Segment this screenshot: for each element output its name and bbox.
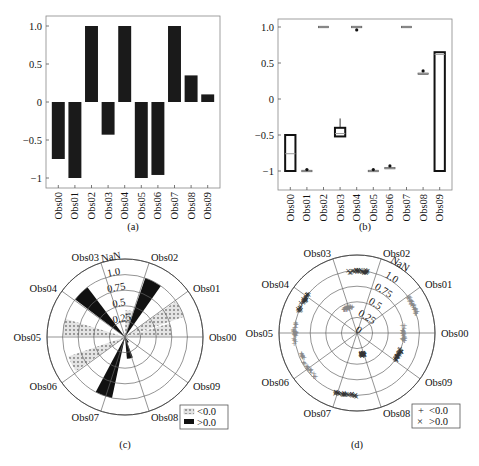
radial-tick-label: 1.0	[106, 266, 121, 279]
scatter-marker: ×	[351, 267, 357, 275]
scatter-marker: ×	[345, 267, 351, 275]
scatter-marker: ×	[295, 307, 301, 315]
scatter-marker: ×	[346, 391, 352, 399]
bar	[68, 102, 81, 178]
legend-d: + <0.0 × >0.0	[412, 404, 460, 428]
scatter-marker: +	[303, 363, 309, 371]
x-tick-label: Obs01	[69, 192, 80, 219]
y-tick-label: 0.5	[29, 59, 42, 70]
caption-b: (b)	[359, 221, 372, 233]
polar-angle-label: Obs06	[30, 381, 57, 392]
outlier	[422, 69, 425, 72]
box	[418, 73, 428, 75]
legend-swatch-neg	[184, 409, 194, 414]
box	[285, 135, 295, 171]
scatter-marker: ×	[362, 266, 368, 274]
polar-angle-label: Obs07	[72, 412, 99, 423]
x-tick-label: Obs05	[136, 192, 147, 219]
y-tick-label: −1	[31, 173, 42, 184]
x-tick-label: Obs09	[202, 192, 213, 219]
x-tick-label: Obs07	[401, 194, 412, 221]
x-tick-label: Obs03	[335, 194, 346, 221]
polar-angle-label: Obs05	[14, 332, 41, 343]
y-tick-label: −0.5	[23, 135, 42, 146]
x-tick-label: Obs04	[351, 193, 362, 221]
bar	[201, 94, 214, 102]
legend-c: <0.0 >0.0	[180, 405, 228, 429]
scatter-marker: +	[400, 330, 406, 338]
outlier	[305, 168, 308, 171]
polar-angle-label: Obs00	[209, 332, 236, 343]
x-tick-label: Obs02	[86, 192, 97, 219]
scatter-marker: ×	[351, 392, 357, 400]
y-tick-label: 0.5	[261, 58, 274, 69]
legend-swatch-pos	[184, 419, 194, 424]
polar-angle-label: Obs04	[262, 279, 290, 290]
polar-angle-label: Obs08	[383, 408, 410, 419]
scatter-marker: ×	[302, 295, 308, 303]
scatter-marker: ×	[398, 347, 404, 355]
y-tick-label: 1.0	[261, 22, 274, 33]
polar-bar-chart-c: Obs00Obs01Obs02Obs03Obs04Obs05Obs06Obs07…	[14, 250, 237, 423]
legend-marker-pos: ×	[417, 416, 423, 427]
y-tick-label: 1.0	[29, 21, 42, 32]
box	[352, 26, 362, 28]
polar-angle-label: Obs05	[246, 328, 273, 339]
x-tick-label: Obs00	[53, 192, 64, 219]
x-tick-label: Obs07	[169, 192, 180, 219]
bar-chart-a: 1.00.50−0.5−1Obs00Obs01Obs02Obs03Obs04Ob…	[23, 16, 220, 219]
bar	[135, 102, 148, 178]
box	[335, 128, 345, 137]
scatter-marker: +	[341, 306, 347, 314]
legend-label-neg: <0.0	[197, 406, 216, 417]
y-tick-label: −1	[263, 166, 274, 177]
scatter-marker: +	[413, 306, 419, 314]
x-tick-label: Obs06	[384, 194, 395, 221]
polar-angle-label: Obs03	[72, 252, 99, 263]
polar-angle-label: Obs07	[304, 408, 331, 419]
polar-angle-label: Obs01	[425, 279, 452, 290]
box-plot-b: 1.00.50−0.5−1Obs00Obs01Obs02Obs03Obs04Ob…	[255, 19, 452, 221]
legend-marker-neg: +	[418, 405, 424, 416]
polar-angle-label: Obs02	[151, 252, 178, 263]
x-tick-label: Obs06	[152, 192, 163, 219]
caption-a: (a)	[127, 221, 139, 233]
box	[401, 26, 411, 28]
bar	[102, 102, 115, 135]
bar	[52, 102, 65, 159]
scatter-marker: ×	[359, 352, 365, 360]
legend-label-neg: <0.0	[429, 405, 448, 416]
x-tick-label: Obs08	[186, 192, 197, 219]
y-tick-label: −0.5	[255, 130, 274, 141]
x-tick-label: Obs04	[119, 191, 130, 219]
x-tick-label: Obs02	[318, 194, 329, 221]
scatter-marker: ×	[332, 390, 338, 398]
legend-label-pos: >0.0	[429, 416, 448, 427]
bar	[118, 26, 131, 102]
box	[385, 167, 395, 169]
x-tick-label: Obs05	[368, 194, 379, 221]
scatter-marker: +	[291, 328, 297, 336]
bar	[85, 26, 98, 102]
caption-d: (d)	[351, 439, 364, 451]
radial-tick-label: 0.5	[112, 296, 127, 309]
polar-angle-label: Obs06	[262, 377, 289, 388]
outlier	[355, 28, 358, 31]
x-tick-label: Obs09	[434, 194, 445, 221]
x-tick-label: Obs03	[103, 192, 114, 219]
outlier	[372, 168, 375, 171]
bar	[151, 102, 164, 175]
polar-angle-label: Obs09	[193, 381, 220, 392]
box	[318, 26, 328, 28]
polar-angle-label: Obs01	[193, 283, 220, 294]
x-tick-label: Obs08	[418, 194, 429, 221]
polar-scatter-d: Obs00Obs01Obs02Obs03Obs04Obs05Obs06Obs07…	[246, 248, 469, 419]
y-tick-label: 0	[269, 94, 274, 105]
polar-angle-label: Obs09	[425, 377, 452, 388]
legend-label-pos: >0.0	[197, 417, 216, 428]
outlier	[388, 164, 391, 167]
y-tick-label: 0	[37, 97, 42, 108]
x-tick-label: Obs00	[285, 194, 296, 221]
polar-angle-label: Obs00	[441, 328, 468, 339]
bar	[185, 75, 198, 102]
